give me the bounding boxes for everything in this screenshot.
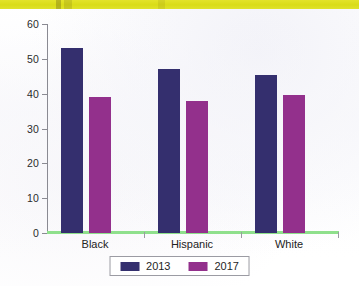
y-tick-label: 0 (33, 227, 39, 239)
y-tick-label: 40 (27, 88, 39, 100)
x-category-label-hispanic: Hispanic (171, 238, 213, 250)
y-tick (42, 59, 47, 60)
bar-2017-white[interactable] (283, 95, 305, 233)
y-tick (42, 233, 47, 234)
yellow-header-banner (0, 0, 359, 9)
x-axis-separator (144, 232, 145, 238)
x-axis-separator (241, 232, 242, 238)
legend-swatch-2017 (189, 262, 208, 271)
x-axis-separator (338, 232, 339, 238)
legend-label-2013: 2013 (146, 260, 170, 272)
chart-legend: 2013 2017 (109, 256, 250, 276)
y-axis-line (47, 24, 48, 233)
bar-2013-hispanic[interactable] (158, 69, 180, 233)
y-tick-label: 10 (27, 192, 39, 204)
y-tick-label: 60 (27, 18, 39, 30)
bar-2013-black[interactable] (61, 48, 83, 233)
banner-smudge (158, 0, 165, 9)
legend-swatch-2013 (120, 262, 139, 271)
y-tick-label: 20 (27, 157, 39, 169)
y-tick (42, 24, 47, 25)
legend-label-2017: 2017 (215, 260, 239, 272)
banner-smudge (56, 0, 61, 9)
bar-2017-black[interactable] (89, 97, 111, 233)
y-tick (42, 198, 47, 199)
banner-smudge (64, 0, 72, 9)
bar-2017-hispanic[interactable] (186, 101, 208, 233)
plot-area: 60 50 40 30 20 10 0 Black Hispanic White (47, 24, 339, 233)
x-category-label-black: Black (82, 238, 109, 250)
bar-2013-white[interactable] (255, 75, 277, 234)
legend-item-2017[interactable]: 2017 (189, 260, 239, 272)
y-tick (42, 129, 47, 130)
bar-chart: 60 50 40 30 20 10 0 Black Hispanic White (0, 9, 359, 286)
y-tick (42, 163, 47, 164)
legend-item-2013[interactable]: 2013 (120, 260, 170, 272)
y-tick (42, 94, 47, 95)
x-category-label-white: White (275, 238, 303, 250)
y-tick-label: 50 (27, 53, 39, 65)
y-tick-label: 30 (27, 123, 39, 135)
